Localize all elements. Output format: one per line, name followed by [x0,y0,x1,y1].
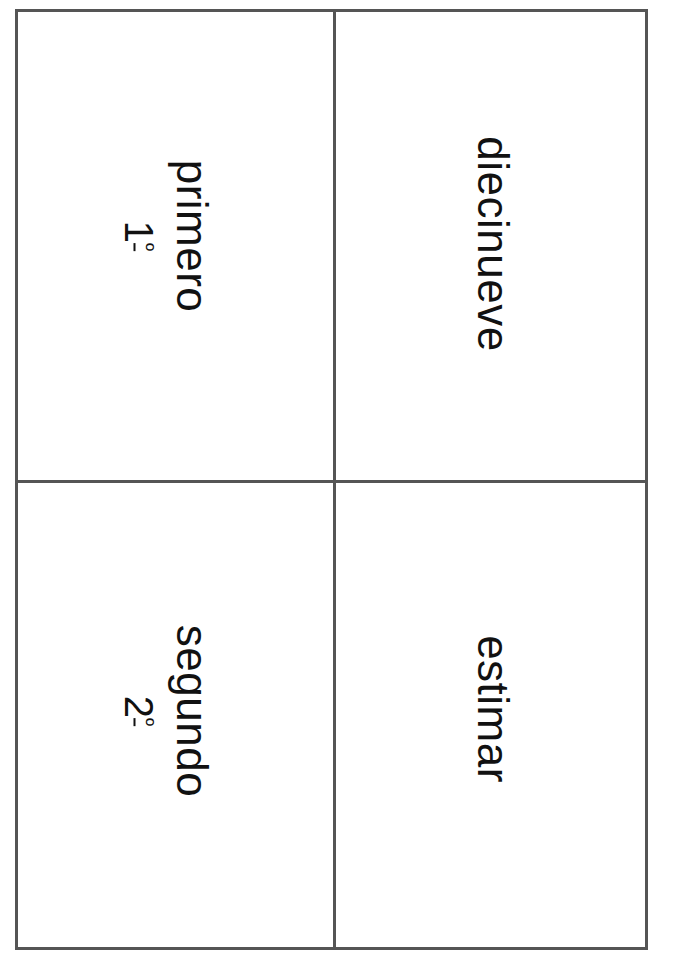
card-diecinueve: diecinueve [336,12,648,480]
card-content: primero 1º [116,160,215,313]
card-word: diecinueve [469,136,517,351]
card-word: segundo [167,625,215,797]
ordinal-suffix: º [133,243,158,251]
card-sheet: primero 1º diecinueve segundo 2º estimar [15,9,648,950]
card-estimar: estimar [336,483,648,947]
ordinal-number: 1 [116,221,160,243]
card-word: primero [167,160,215,313]
ordinal-number: 2 [116,696,160,718]
card-content: segundo 2º [116,625,215,797]
card-primero: primero 1º [18,12,333,480]
card-ordinal: 2º [116,625,167,797]
card-content: diecinueve [469,136,517,351]
card-content: estimar [469,635,517,783]
card-word: estimar [469,635,517,783]
ordinal-suffix: º [133,718,158,726]
card-segundo: segundo 2º [18,483,333,947]
card-ordinal: 1º [116,160,167,313]
